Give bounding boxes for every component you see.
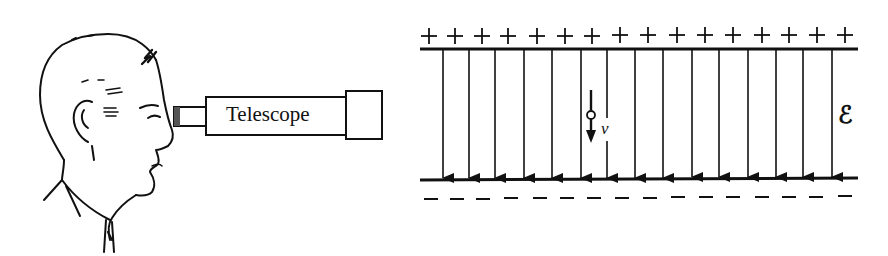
plus-icon: [447, 28, 463, 44]
drop-circle: [587, 111, 595, 119]
plus-icon: [612, 27, 628, 43]
bottom-plate: [420, 178, 858, 180]
electric-field-label: ℰ: [838, 100, 853, 129]
plus-icon: [697, 27, 713, 43]
positive-charges: [421, 27, 853, 44]
figure: Telescope: [0, 0, 888, 256]
plus-icon: [725, 27, 741, 43]
plus-icon: [837, 27, 853, 43]
electric-field-lines: [443, 50, 832, 178]
plus-icon: [754, 27, 770, 43]
plus-icon: [421, 28, 437, 44]
plus-icon: [781, 27, 797, 43]
velocity-arrowhead: [586, 130, 596, 143]
negative-charges: [424, 196, 852, 199]
oil-drop: [586, 90, 596, 143]
plus-icon: [669, 27, 685, 43]
plus-icon: [640, 27, 656, 43]
capacitor-diagram: [0, 0, 888, 256]
plus-icon: [557, 28, 573, 44]
velocity-label: v: [601, 119, 609, 139]
plus-icon: [584, 28, 600, 44]
plus-icon: [529, 28, 545, 44]
plus-icon: [474, 28, 490, 44]
plus-icon: [809, 27, 825, 43]
plus-icon: [500, 28, 516, 44]
